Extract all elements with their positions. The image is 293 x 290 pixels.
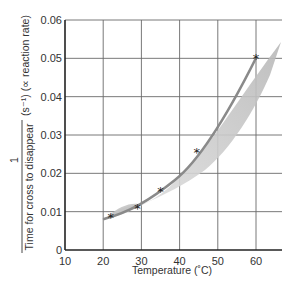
x-tick-label: 50: [212, 255, 224, 267]
x-tick-label: 10: [59, 255, 71, 267]
y-tick-label: 0.02: [41, 167, 62, 179]
y-axis-label: 1 Time for cross to disappear (s⁻¹) (∝ r…: [8, 15, 35, 253]
y-tick-label: 0.03: [41, 129, 62, 141]
data-markers: *****: [108, 51, 260, 225]
star-marker-icon: *: [253, 51, 260, 66]
x-tick-label: 20: [97, 255, 109, 267]
reaction-rate-chart: 00.010.020.030.040.050.06 102030405060 *…: [0, 0, 293, 290]
y-tick-label: 0.01: [41, 206, 62, 218]
y-tick-label: 0.04: [41, 91, 62, 103]
y-tick-label: 0.06: [41, 14, 62, 26]
y-label-denominator: Time for cross to disappear: [23, 123, 35, 250]
uncertainty-band: [103, 42, 281, 219]
star-marker-icon: *: [134, 201, 141, 216]
grid: [65, 20, 282, 250]
star-marker-icon: *: [157, 184, 164, 199]
y-label-numerator: 1: [8, 157, 20, 163]
x-axis-label: Temperature (˚C): [132, 264, 212, 276]
y-label-units: (s⁻¹) (∝ reaction rate): [19, 15, 31, 116]
y-tick-label: 0.05: [41, 52, 62, 64]
star-marker-icon: *: [108, 210, 115, 225]
y-tick-labels: 00.010.020.030.040.050.06: [41, 14, 62, 256]
x-tick-label: 60: [250, 255, 262, 267]
star-marker-icon: *: [194, 145, 201, 160]
